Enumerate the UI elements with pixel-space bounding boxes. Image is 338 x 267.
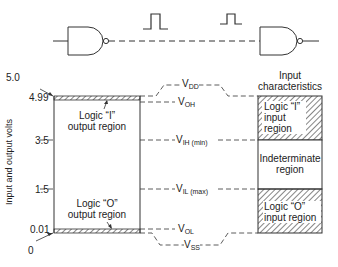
logic-1-output-label: Logic “I” output region — [58, 110, 136, 132]
vol-label: VOL — [178, 223, 194, 237]
axis-title: Input and output volts — [4, 119, 14, 205]
tick-5.0: 5.0 — [6, 72, 20, 83]
logic-0-input-label: Logic “O” input region — [263, 201, 321, 223]
pulse-icon-1 — [143, 14, 168, 29]
tick-0: 0 — [28, 245, 34, 256]
tick-0.01: 0.01 — [30, 224, 49, 235]
nand-gate-receiver-icon — [260, 27, 319, 55]
pulse-icon-2 — [220, 14, 242, 24]
tick-4.99: 4.99 — [29, 92, 48, 103]
level-lines — [40, 85, 258, 245]
voh-label: VOH — [178, 96, 195, 110]
indeterminate-region-label: Indeterminate region — [259, 153, 321, 175]
logic-1-input-label: Logic “I” input region — [262, 101, 306, 134]
vih-min-label: VIH (min) — [176, 134, 208, 148]
tick-1.5: 1.5 — [35, 184, 49, 195]
tick-3.5: 3.5 — [35, 135, 49, 146]
nand-gate-driver-icon — [53, 27, 109, 55]
vss-label: VSS — [184, 239, 200, 253]
logic-0-output-label: Logic “O” output region — [58, 198, 136, 220]
vdd-label: VDD — [182, 78, 199, 92]
input-characteristics-title: Input characteristics — [250, 70, 330, 92]
vil-max-label: VIL (max) — [176, 183, 208, 197]
